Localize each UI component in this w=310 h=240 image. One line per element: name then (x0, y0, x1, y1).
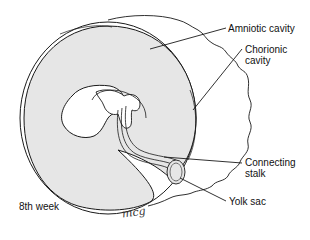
label-amniotic-cavity: Amniotic cavity (228, 23, 295, 34)
amniotic-sac (24, 26, 196, 210)
label-yolk-sac: Yolk sac (229, 196, 266, 207)
label-chorionic-cavity: Chorionic cavity (245, 44, 287, 66)
label-connecting-stalk: Connecting stalk (245, 157, 296, 179)
stage-label: 8th week (19, 201, 59, 212)
